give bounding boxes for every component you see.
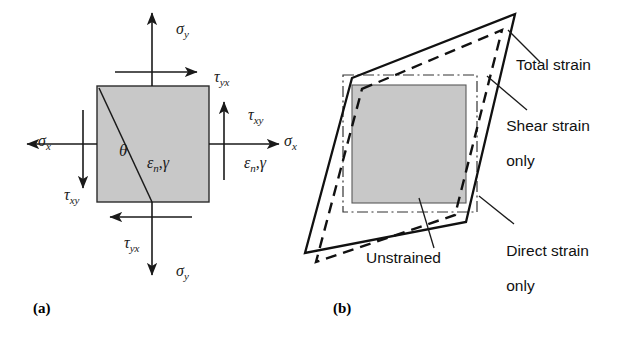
annotation-shear-strain-only: Shear strain only	[489, 100, 590, 187]
leader-direct-strain	[479, 196, 514, 224]
panel-b-caption: (b)	[333, 300, 351, 317]
stress-strain-figure: σy τyx τxy σx σx θ εn,γ εn,γ τxy τyx σy …	[0, 0, 634, 344]
unstrained-square	[352, 85, 466, 203]
annotation-direct-strain-line2: only	[506, 277, 534, 294]
annotation-total-strain: Total strain	[516, 56, 591, 73]
annotation-shear-strain-line2: only	[506, 152, 534, 169]
annotation-unstrained: Unstrained	[366, 249, 441, 266]
annotation-shear-strain-line1: Shear strain	[506, 117, 590, 134]
annotation-direct-strain-only: Direct strain only	[489, 225, 589, 312]
annotation-direct-strain-line1: Direct strain	[506, 242, 589, 259]
